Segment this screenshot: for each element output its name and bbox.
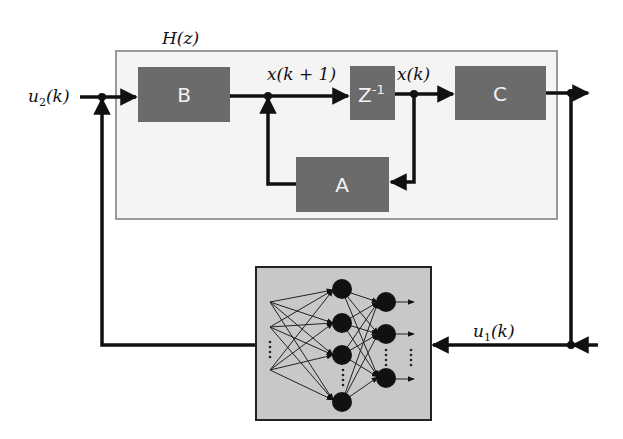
junction-xk1 bbox=[264, 92, 272, 100]
system-label: H(z) bbox=[161, 28, 199, 48]
hidden-neuron bbox=[332, 313, 352, 333]
junction-xk bbox=[410, 90, 418, 98]
label-xk1: x(k + 1) bbox=[267, 64, 336, 84]
block-b-label: B bbox=[177, 83, 191, 107]
hidden-neuron bbox=[332, 345, 352, 365]
label-u2: u2(k) bbox=[28, 86, 70, 109]
hidden-neuron bbox=[332, 279, 352, 299]
block-a-label: A bbox=[335, 173, 349, 197]
block-diagram: H(z) B Z-1 C A bbox=[0, 0, 623, 439]
label-xk: x(k) bbox=[397, 64, 430, 84]
output-neuron bbox=[376, 292, 396, 312]
block-a: A bbox=[296, 157, 389, 212]
output-neuron bbox=[376, 324, 396, 344]
junction-u2 bbox=[98, 93, 106, 101]
junction-u1 bbox=[567, 341, 575, 349]
block-z-inverse: Z-1 bbox=[350, 66, 395, 120]
output-neuron bbox=[376, 368, 396, 388]
junction-output bbox=[567, 89, 575, 97]
block-c-label: C bbox=[493, 82, 507, 106]
hidden-neuron bbox=[332, 392, 352, 412]
block-b: B bbox=[138, 67, 230, 122]
block-c: C bbox=[455, 66, 546, 120]
neural-network-block bbox=[256, 267, 431, 420]
label-u1: u1(k) bbox=[473, 321, 515, 344]
